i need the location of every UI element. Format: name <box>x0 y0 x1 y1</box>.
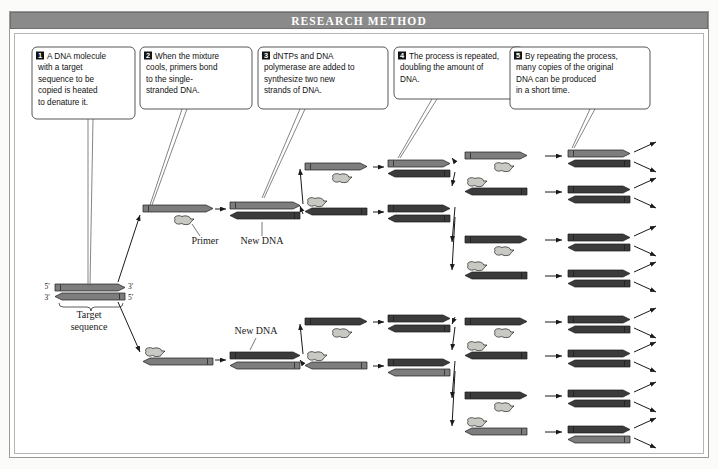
step5-duplex-top-3 <box>568 270 630 277</box>
primer-shape <box>308 352 327 361</box>
diagram-label-4: sequence <box>71 321 108 332</box>
primer-shape <box>495 329 514 338</box>
callout-line-5-1: many copies of the original <box>516 63 614 72</box>
newdna-label-leader-lower <box>250 338 256 350</box>
callout-1[interactable]: 1A DNA moleculewith a targetsequence to … <box>32 47 135 286</box>
step5-duplex-top-6 <box>568 390 630 397</box>
end-label-1: 3′ <box>128 282 134 291</box>
arrow-out-3-b <box>634 282 656 292</box>
step5-duplex-top-2 <box>568 234 630 241</box>
dna-strand-group <box>55 150 630 443</box>
callout-number-1: 1 <box>38 51 42 60</box>
step5-duplex-bottom-5 <box>568 360 630 367</box>
diagram-label-3: Target <box>76 309 101 320</box>
step3-upper-template <box>230 202 300 209</box>
step4-duplex-bottom-3 <box>388 369 450 376</box>
primer-shape <box>146 348 165 357</box>
step5-duplex-bottom-2 <box>568 244 630 251</box>
primer-shape <box>468 178 487 187</box>
arrow-out-2-b <box>634 246 656 256</box>
arrow-out-0-b <box>634 162 656 172</box>
branch-original-to-lower <box>118 302 140 352</box>
primer-shape <box>333 174 352 183</box>
callout-line-2-1: cools, primers bond <box>146 63 218 72</box>
callout-line-2-3: stranded DNA. <box>146 86 200 95</box>
arrow-out-0-a <box>634 142 656 152</box>
arrow-out-4-b <box>634 328 656 338</box>
step4-duplex-bottom-1 <box>388 215 450 222</box>
step4-template-0 <box>305 163 367 170</box>
branch-u2 <box>300 206 303 214</box>
arrow-out-3-a <box>634 262 656 272</box>
step5-duplex-top-0 <box>568 150 630 157</box>
branch-original-to-upper <box>118 215 140 282</box>
step3-lower-newdna <box>230 352 300 359</box>
callout-line-4-0: The process is repeated, <box>409 52 499 61</box>
primer-shape <box>468 342 487 351</box>
end-label-2: 3′ <box>45 293 51 302</box>
primer-shape <box>333 329 352 338</box>
step5-duplex-top-1 <box>568 186 630 193</box>
branch-u1 <box>300 169 303 204</box>
arrow-out-5-b <box>634 362 656 372</box>
pcr-diagram-canvas: PrimerNew DNANew DNATargetsequence5′3′3′… <box>0 0 718 469</box>
step5-duplex-bottom-6 <box>568 400 630 407</box>
step5-template-1 <box>465 188 527 195</box>
arrow-out-1-a <box>634 178 656 188</box>
callout-line-1-3: copied is heated <box>38 86 98 95</box>
step5-template-5 <box>465 352 527 359</box>
step3-lower-template <box>230 362 300 369</box>
branch-c2-2-b <box>452 327 455 350</box>
primer-shape <box>175 216 194 225</box>
callout-number-3: 3 <box>264 51 268 60</box>
diagram-label-1: New DNA <box>240 235 284 246</box>
step5-duplex-bottom-3 <box>568 280 630 287</box>
callout-line-3-2: synthesize two new <box>264 75 335 84</box>
end-label-3: 5′ <box>128 293 134 302</box>
primer-shape <box>495 403 514 412</box>
step5-duplex-top-7 <box>568 426 630 433</box>
step4-duplex-top-3 <box>388 359 450 366</box>
pcr-research-method-figure: RESEARCH METHOD PrimerNew DNANew DNATarg… <box>0 0 718 469</box>
arrow-out-7-a <box>634 418 656 428</box>
callout-line-3-3: strands of DNA. <box>264 86 322 95</box>
step5-template-6 <box>465 392 527 399</box>
step4-duplex-top-1 <box>388 205 450 212</box>
step5-template-0 <box>465 152 527 159</box>
step5-duplex-bottom-0 <box>568 160 630 167</box>
end-label-0: 5′ <box>45 282 51 291</box>
callout-2[interactable]: 2When the mixturecools, primers bondto t… <box>140 47 252 205</box>
step5-template-2 <box>465 236 527 243</box>
callout-line-1-0: A DNA molecule <box>47 52 107 61</box>
callout-line-2-0: When the mixture <box>155 52 220 61</box>
diagram-label-2: New DNA <box>234 325 278 336</box>
callout-line-1-2: sequence to be <box>38 75 94 84</box>
step5-template-7 <box>465 428 527 435</box>
callout-line-1-1: with a target <box>37 63 83 72</box>
callout-5[interactable]: 5By repeating the process,many copies of… <box>510 47 650 148</box>
step5-duplex-top-5 <box>568 350 630 357</box>
primer-shape <box>495 247 514 256</box>
step4-duplex-bottom-2 <box>388 325 450 332</box>
arrow-out-5-a <box>634 342 656 352</box>
original-bottom-strand <box>55 293 125 300</box>
diagram-label-0: Primer <box>191 235 219 246</box>
step4-duplex-top-2 <box>388 315 450 322</box>
step5-duplex-top-4 <box>568 316 630 323</box>
callout-4[interactable]: 4The process is repeated,doubling the am… <box>394 47 524 158</box>
branch-l2 <box>300 360 303 364</box>
callout-line-3-0: dNTPs and DNA <box>273 52 334 61</box>
primer-shape <box>468 262 487 271</box>
step5-duplex-bottom-4 <box>568 326 630 333</box>
arrow-out-1-b <box>634 198 656 208</box>
arrow-out-6-b <box>634 402 656 412</box>
step5-duplex-bottom-1 <box>568 196 630 203</box>
step4-duplex-bottom-0 <box>388 170 450 177</box>
callout-line-2-2: to the single- <box>146 75 193 84</box>
callout-line-4-1: doubling the amount of <box>400 63 484 72</box>
callout-line-5-3: in a short time. <box>516 86 570 95</box>
step4-template-1 <box>305 208 367 215</box>
callout-3[interactable]: 3dNTPs and DNApolymerase are added tosyn… <box>258 47 388 198</box>
branch-c2-2-a <box>452 317 455 324</box>
step4-template-2 <box>305 318 367 325</box>
